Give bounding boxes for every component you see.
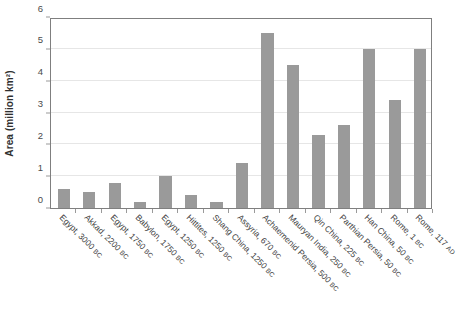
y-axis-ticks: 0123456 xyxy=(0,18,50,209)
x-tick-mark xyxy=(432,209,433,213)
bar xyxy=(134,202,146,208)
x-tick-label-era: BC xyxy=(92,247,104,259)
bar xyxy=(185,195,197,208)
y-tick-label: 4 xyxy=(38,67,43,77)
bar xyxy=(236,163,248,208)
y-tick-label: 1 xyxy=(38,163,43,173)
plot-area xyxy=(50,18,432,209)
x-tick-label: Rome, 117 AD xyxy=(414,213,457,256)
x-tick-label-era: BC xyxy=(271,248,283,260)
y-tick-label: 0 xyxy=(38,195,43,205)
bar xyxy=(58,189,70,208)
x-tick-label-era: BC xyxy=(194,247,206,259)
bar xyxy=(389,100,401,208)
bar xyxy=(338,125,350,208)
x-axis-labels: Egypt, 3000 BCAkkad, 2200 BCEgypt, 1750 … xyxy=(50,213,432,321)
bar xyxy=(414,49,426,208)
x-tick-label-era: AD xyxy=(445,244,457,256)
x-tick-label-era: BC xyxy=(404,254,416,266)
bar xyxy=(109,183,121,208)
x-tick-label-era: BC xyxy=(175,254,187,266)
bar xyxy=(312,135,324,208)
bar xyxy=(363,49,375,208)
y-tick-label: 3 xyxy=(38,99,43,109)
x-tick-label-era: BC xyxy=(329,281,341,293)
x-tick-label-era: BC xyxy=(264,267,276,279)
x-tick-label-era: BC xyxy=(222,250,234,262)
x-tick-label-era: BC xyxy=(340,267,352,279)
bar-series xyxy=(51,19,431,208)
bar xyxy=(261,33,273,208)
y-tick-label: 2 xyxy=(38,131,43,141)
x-tick-label-era: BC xyxy=(355,255,367,267)
bar xyxy=(210,202,222,208)
x-tick-label-era: BC xyxy=(414,238,426,250)
y-tick-label: 6 xyxy=(38,4,43,14)
x-tick-label-era: BC xyxy=(391,266,403,278)
x-tick-label-era: BC xyxy=(143,247,155,259)
bar xyxy=(83,192,95,208)
x-tick-label-era: BC xyxy=(119,249,131,261)
bar xyxy=(287,65,299,208)
bar xyxy=(159,176,171,208)
y-tick-label: 5 xyxy=(38,36,43,46)
